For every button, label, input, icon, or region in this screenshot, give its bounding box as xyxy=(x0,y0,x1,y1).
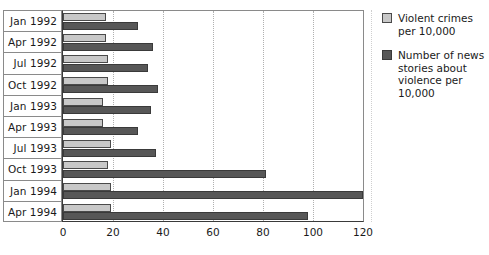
x-axis-tick-label: 0 xyxy=(60,226,67,238)
gridline xyxy=(363,11,364,221)
bar-news-stories xyxy=(63,22,138,30)
bar-violent-crimes xyxy=(63,161,108,169)
bar-violent-crimes xyxy=(63,98,103,106)
bar-rows xyxy=(63,11,363,221)
legend-swatch-dark xyxy=(382,50,392,60)
y-axis-label: Jan 1992 xyxy=(4,11,61,32)
y-axis-label: Jan 1994 xyxy=(4,181,61,202)
legend-swatch-light xyxy=(382,13,392,23)
y-axis-label: Jul 1993 xyxy=(4,138,61,159)
y-axis-label: Apr 1992 xyxy=(4,32,61,53)
bar-row xyxy=(63,53,363,74)
bar-row xyxy=(63,138,363,159)
legend-label: Violent crimes per 10,000 xyxy=(398,12,486,37)
legend-item: Violent crimes per 10,000 xyxy=(382,12,486,37)
y-axis-label: Apr 1993 xyxy=(4,117,61,138)
y-axis-category-labels: Jan 1992Apr 1992Jul 1992Oct 1992Jan 1993… xyxy=(3,10,62,222)
bar-news-stories xyxy=(63,85,158,93)
y-axis-label: Jan 1993 xyxy=(4,96,61,117)
bar-row xyxy=(63,159,363,180)
x-axis-tick-label: 20 xyxy=(106,226,119,238)
bar-news-stories xyxy=(63,170,266,178)
bar-row xyxy=(63,75,363,96)
bar-row xyxy=(63,96,363,117)
x-axis-tick-label: 60 xyxy=(206,226,219,238)
y-axis-label: Oct 1993 xyxy=(4,159,61,180)
bar-violent-crimes xyxy=(63,140,111,148)
bar-row xyxy=(63,117,363,138)
bar-violent-crimes xyxy=(63,204,111,212)
x-axis: 020406080100120 xyxy=(62,223,364,245)
x-axis-tick-label: 40 xyxy=(156,226,169,238)
bar-news-stories xyxy=(63,127,138,135)
bar-news-stories xyxy=(63,64,148,72)
bar-news-stories xyxy=(63,106,151,114)
bar-violent-crimes xyxy=(63,77,108,85)
bar-row xyxy=(63,11,363,32)
bar-violent-crimes xyxy=(63,55,108,63)
bar-news-stories xyxy=(63,212,308,220)
x-axis-tick-label: 120 xyxy=(353,226,373,238)
legend-label: Number of news stories about violence pe… xyxy=(398,49,486,99)
bar-news-stories xyxy=(63,43,153,51)
bar-row xyxy=(63,202,363,222)
y-axis-label: Apr 1994 xyxy=(4,202,61,223)
bar-violent-crimes xyxy=(63,13,106,21)
plot-area xyxy=(62,10,364,222)
x-axis-tick-label: 80 xyxy=(256,226,269,238)
bar-news-stories xyxy=(63,149,156,157)
bar-news-stories xyxy=(63,191,363,199)
legend-item: Number of news stories about violence pe… xyxy=(382,49,486,99)
bar-violent-crimes xyxy=(63,183,111,191)
legend-divider xyxy=(371,10,373,222)
x-axis-tick-label: 100 xyxy=(303,226,323,238)
chart-legend: Violent crimes per 10,000Number of news … xyxy=(382,12,486,111)
bar-row xyxy=(63,32,363,53)
bar-row xyxy=(63,181,363,202)
bar-violent-crimes xyxy=(63,119,103,127)
bar-chart: Jan 1992Apr 1992Jul 1992Oct 1992Jan 1993… xyxy=(0,0,489,255)
y-axis-label: Oct 1992 xyxy=(4,75,61,96)
bar-violent-crimes xyxy=(63,34,106,42)
y-axis-label: Jul 1992 xyxy=(4,53,61,74)
